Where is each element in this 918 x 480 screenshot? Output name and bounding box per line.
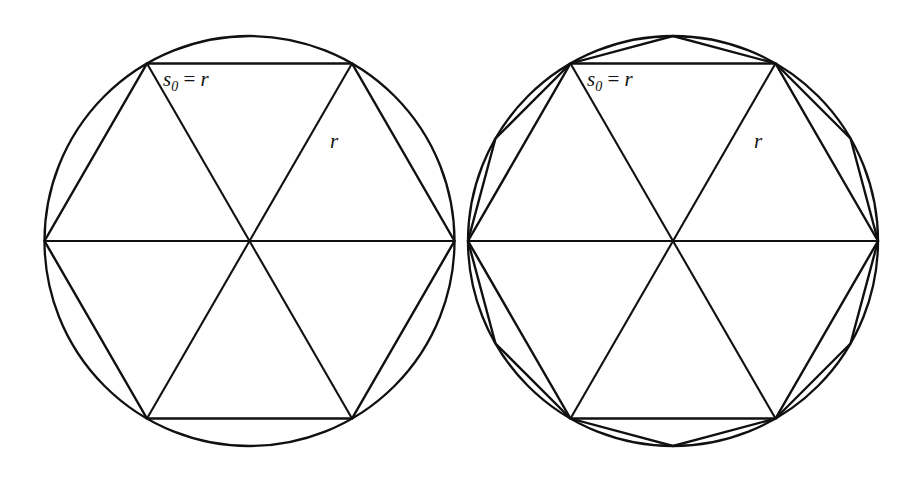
left-side-label-subscript: 0 [171,79,178,94]
right-side-label: s0 = r [587,67,634,94]
right-radii [468,63,878,418]
left-radius-label: r [330,129,339,153]
figure-canvas: s0 = r r s0 = r r [0,0,918,480]
left-radius-300deg [250,241,353,419]
right-side-label-subscript: 0 [595,79,602,94]
right-side-label-r: r [625,67,634,91]
left-radius-240deg [147,241,250,419]
right-radius-label: r [754,129,763,153]
geometry-diagram: s0 = r r s0 = r r [0,0,918,480]
right-radius-240deg [571,241,674,419]
left-radii [45,63,455,418]
right-side-label-equals: = [602,67,624,91]
left-panel: s0 = r r [45,36,455,446]
right-side-label-s: s [587,67,595,91]
left-side-label: s0 = r [163,67,210,94]
right-radius-300deg [673,241,776,419]
left-side-label-r: r [201,67,210,91]
right-panel: s0 = r r [468,36,878,446]
left-side-label-equals: = [178,67,200,91]
left-side-label-s: s [163,67,171,91]
